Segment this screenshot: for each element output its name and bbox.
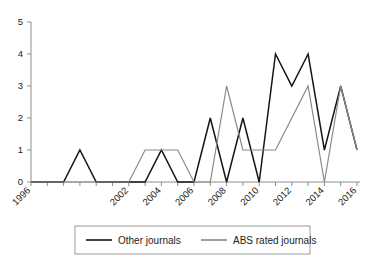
chart-canvas: 0123451996200220042006200820102012201420…: [0, 0, 384, 270]
legend-label-1: ABS rated journals: [233, 235, 316, 246]
x-tick-label: 2012: [270, 185, 293, 208]
series-line-other-journals: [31, 54, 357, 182]
x-tick-label: 2006: [173, 185, 196, 208]
x-tick-label: 2002: [107, 185, 130, 208]
x-tick-label: 2016: [336, 185, 359, 208]
legend-label-0: Other journals: [118, 235, 181, 246]
y-tick-label: 1: [18, 144, 23, 155]
y-tick-label: 3: [18, 80, 23, 91]
series-line-abs-rated-journals: [31, 86, 357, 182]
x-tick-label: 2008: [205, 185, 228, 208]
line-chart: 0123451996200220042006200820102012201420…: [0, 0, 384, 270]
y-tick-label: 2: [18, 112, 23, 123]
x-tick-label: 2010: [238, 185, 261, 208]
x-tick-label: 2014: [303, 185, 326, 208]
y-tick-label: 5: [18, 16, 23, 27]
x-tick-label: 2004: [140, 185, 163, 208]
x-tick-label: 1996: [10, 185, 33, 208]
y-tick-label: 4: [18, 48, 23, 59]
